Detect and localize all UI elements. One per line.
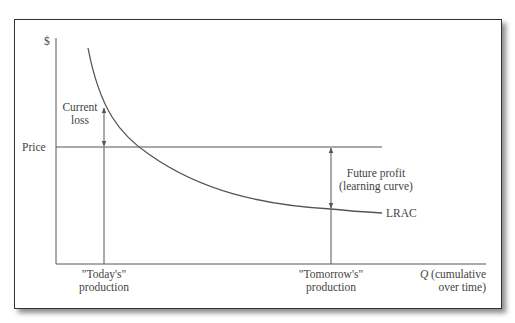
x-axis-label: Q (cumulative over time) (414, 268, 486, 294)
lrac-label: LRAC (386, 207, 417, 220)
price-label: Price (22, 141, 46, 154)
tomorrow-production-label: "Tomorrow's" production (291, 268, 371, 294)
current-loss-label: Current loss (60, 101, 100, 127)
y-axis-label: $ (44, 35, 50, 48)
future-profit-label: Future profit (learning curve) (336, 167, 416, 193)
today-production-label: "Today's" production (74, 268, 134, 294)
